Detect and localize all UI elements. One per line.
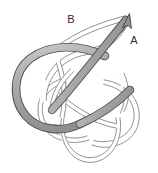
- knot-diagram-figure: B A: [0, 0, 158, 173]
- label-a: A: [130, 34, 138, 46]
- label-b: B: [67, 13, 74, 25]
- knot-diagram-canvas: B A: [0, 0, 158, 173]
- figure-background: [0, 0, 158, 173]
